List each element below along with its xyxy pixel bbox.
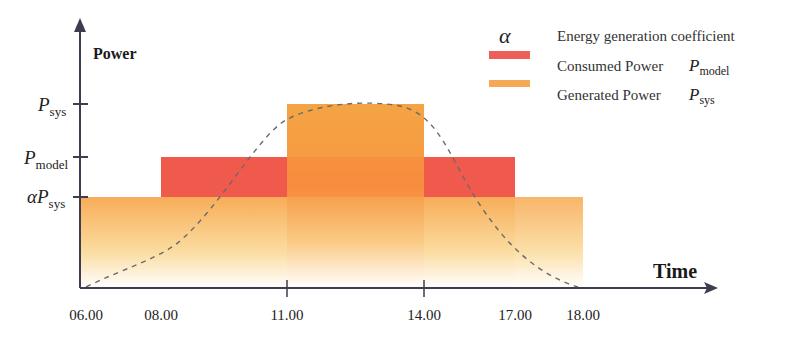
xlabel-1800: 18.00: [566, 307, 600, 323]
ylabel-apsys: αPsys: [27, 186, 65, 211]
y-axis-arrow-icon: [74, 18, 86, 32]
gen-block-06-08: [81, 197, 161, 288]
xlabel-0800: 08.00: [144, 307, 178, 323]
y-axis-title: Power: [93, 45, 137, 62]
ylabel-psys: Psys: [37, 94, 66, 119]
gen-block-14-17: [424, 197, 515, 288]
xlabel-0600: 06.00: [69, 307, 103, 323]
legend-generated-symbol: Psys: [688, 85, 715, 107]
legend-consumed-symbol: Pmodel: [688, 56, 730, 78]
legend-alpha-symbol: α: [499, 23, 511, 48]
ylabel-pmodel: Pmodel: [23, 147, 68, 172]
consumed-block-14-17: [424, 157, 515, 197]
xlabel-1100: 11.00: [270, 307, 303, 323]
legend-consumed-label: Consumed Power: [557, 58, 663, 74]
legend: α Energy generation coefficient Consumed…: [489, 23, 736, 107]
gen-block-11-14-overlap: [287, 157, 424, 197]
xlabel-1700: 17.00: [498, 307, 532, 323]
x-axis-title: Time: [653, 260, 697, 282]
legend-generated-label: Generated Power: [557, 87, 661, 103]
legend-generated-swatch: [489, 80, 530, 87]
gen-block-08-11: [161, 197, 287, 288]
legend-alpha-desc: Energy generation coefficient: [557, 28, 736, 44]
legend-consumed-swatch: [489, 51, 530, 59]
power-time-diagram: Power Time Psys Pmodel αPsys 06.00 08.00…: [0, 0, 792, 344]
x-tick-labels: 06.00 08.00 11.00 14.00 17.00 18.00: [69, 307, 600, 323]
xlabel-1400: 14.00: [407, 307, 441, 323]
